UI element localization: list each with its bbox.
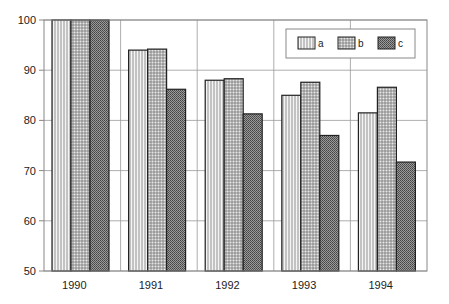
y-tick-label: 80: [24, 114, 36, 126]
bar-a-1990: [52, 20, 71, 271]
legend: abc: [286, 29, 415, 58]
legend-label-b: b: [358, 38, 364, 49]
y-tick-label: 100: [18, 14, 36, 26]
bar-b-1992: [224, 79, 243, 271]
legend-swatch-b: [338, 37, 355, 49]
x-tick-label: 1994: [368, 279, 392, 291]
x-tick-label: 1993: [292, 279, 316, 291]
legend-swatch-c: [378, 37, 395, 49]
bar-chart: 5060708090100 19901991199219931994 abc: [0, 0, 449, 304]
x-tick-label: 1992: [215, 279, 239, 291]
bar-b-1994: [377, 87, 396, 271]
legend-label-c: c: [398, 38, 403, 49]
y-tick-label: 70: [24, 165, 36, 177]
bar-c-1992: [243, 114, 262, 271]
y-tick-label: 90: [24, 64, 36, 76]
x-tick-label: 1990: [62, 279, 86, 291]
bar-c-1990: [90, 20, 109, 271]
bar-b-1990: [71, 20, 90, 271]
y-tick-label: 50: [24, 265, 36, 277]
bar-a-1993: [282, 95, 301, 271]
bar-b-1991: [148, 49, 167, 271]
x-tick-label: 1991: [139, 279, 163, 291]
y-axis: 5060708090100: [18, 14, 44, 277]
bar-a-1991: [129, 50, 148, 271]
legend-swatch-a: [298, 37, 315, 49]
y-tick-label: 60: [24, 215, 36, 227]
bar-b-1993: [301, 82, 320, 271]
legend-label-a: a: [318, 38, 324, 49]
bar-c-1991: [167, 89, 186, 271]
bar-a-1994: [358, 113, 377, 271]
bar-c-1993: [320, 135, 339, 271]
x-axis: 19901991199219931994: [62, 279, 393, 291]
bar-a-1992: [205, 80, 224, 271]
bar-c-1994: [396, 162, 415, 271]
